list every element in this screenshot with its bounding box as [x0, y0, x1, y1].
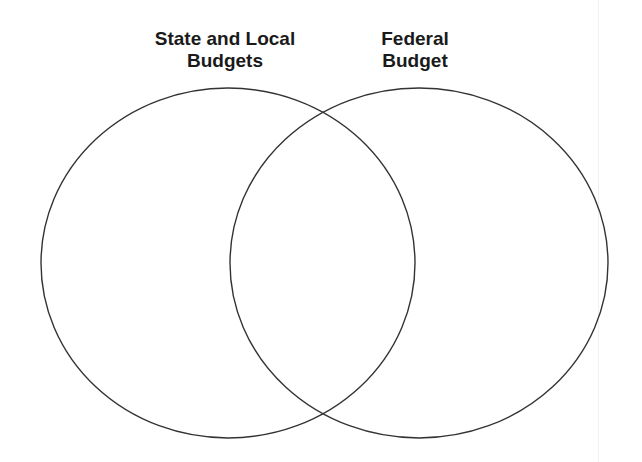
circle-federal — [230, 88, 608, 438]
venn-diagram — [0, 0, 642, 462]
circle-state-local — [41, 88, 415, 438]
